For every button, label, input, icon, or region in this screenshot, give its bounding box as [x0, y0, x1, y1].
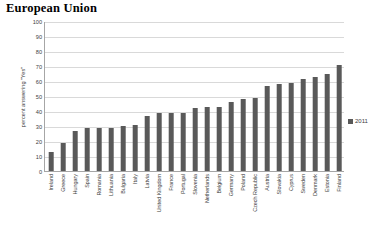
x-label-slot: Cyprus: [285, 174, 297, 242]
x-label-slot: Portugal: [177, 174, 189, 242]
x-label-slot: Denmark: [309, 174, 321, 242]
bar: [277, 84, 282, 171]
y-tick-label-90: 90: [36, 34, 42, 40]
x-label-slot: Austria: [261, 174, 273, 242]
x-label-slot: Romania: [93, 174, 105, 242]
x-axis-category-labels: IrelandGreeceHungarySpainRomaniaLithuani…: [45, 174, 345, 242]
bar-slot: [117, 22, 129, 171]
bar-slot: [93, 22, 105, 171]
bar-slot: [237, 22, 249, 171]
x-axis-label: Netherlands: [204, 174, 210, 203]
bar-slot: [225, 22, 237, 171]
x-axis-label: Portugal: [180, 174, 186, 194]
bar-slot: [153, 22, 165, 171]
x-axis-label: Czech Republic: [252, 174, 258, 212]
y-tick-label-80: 80: [36, 49, 42, 55]
x-label-slot: Finland: [333, 174, 345, 242]
bar: [133, 125, 138, 172]
x-axis-label: Italy: [132, 174, 138, 184]
y-tick-label-30: 30: [36, 124, 42, 130]
plot-area: [44, 22, 344, 172]
x-axis-label: Greece: [60, 174, 66, 192]
x-axis-label: Lithuania: [108, 174, 114, 196]
x-axis-label: Cyprus: [288, 174, 294, 191]
x-axis-label: Slovakia: [276, 174, 282, 194]
bar: [61, 143, 66, 172]
bar-slot: [201, 22, 213, 171]
y-tick-label-20: 20: [36, 139, 42, 145]
bar: [169, 113, 174, 172]
x-label-slot: Hungary: [69, 174, 81, 242]
x-axis-label: Slovenia: [192, 174, 198, 195]
legend: 2011: [348, 118, 368, 125]
bar: [109, 128, 114, 172]
bars-layer: [45, 22, 344, 171]
legend-label-2011: 2011: [355, 118, 368, 125]
y-tick-label-10: 10: [36, 154, 42, 160]
bar-slot: [69, 22, 81, 171]
x-axis-label: Romania: [96, 174, 102, 196]
y-axis-tick-labels: 1009080706050403020100: [20, 22, 42, 172]
bar: [205, 107, 210, 172]
bar-slot: [165, 22, 177, 171]
bar-slot: [57, 22, 69, 171]
x-label-slot: United Kingdom: [153, 174, 165, 242]
y-tick-label-40: 40: [36, 109, 42, 115]
bar: [193, 108, 198, 171]
bar: [49, 152, 54, 172]
bar: [241, 99, 246, 171]
bar-slot: [129, 22, 141, 171]
x-label-slot: Poland: [237, 174, 249, 242]
bar-slot: [249, 22, 261, 171]
bar: [265, 86, 270, 172]
bar-slot: [189, 22, 201, 171]
y-tick-label-100: 100: [33, 19, 42, 25]
x-axis-label: Bulgaria: [120, 174, 126, 194]
x-axis-label: Poland: [240, 174, 246, 191]
y-tick-label-50: 50: [36, 94, 42, 100]
bar: [157, 113, 162, 172]
bar: [85, 128, 90, 172]
x-axis-label: Belgium: [216, 174, 222, 193]
x-axis-label: Latvia: [144, 174, 150, 188]
x-axis-label: Sweden: [300, 174, 306, 193]
x-label-slot: Netherlands: [201, 174, 213, 242]
bar-slot: [177, 22, 189, 171]
x-label-slot: Estonia: [321, 174, 333, 242]
bar: [337, 65, 342, 172]
bar-slot: [213, 22, 225, 171]
x-axis-label: Spain: [84, 174, 90, 188]
bar-slot: [333, 22, 345, 171]
bar-slot: [261, 22, 273, 171]
bar: [97, 128, 102, 172]
bar: [121, 126, 126, 171]
x-label-slot: Ireland: [45, 174, 57, 242]
x-axis-label: Ireland: [48, 174, 54, 190]
x-axis-label: Austria: [264, 174, 270, 191]
x-label-slot: Czech Republic: [249, 174, 261, 242]
bar-slot: [285, 22, 297, 171]
y-tick-label-0: 0: [39, 169, 42, 175]
x-label-slot: France: [165, 174, 177, 242]
x-label-slot: Slovakia: [273, 174, 285, 242]
bar-slot: [321, 22, 333, 171]
x-label-slot: Bulgaria: [117, 174, 129, 242]
bar: [181, 113, 186, 172]
x-label-slot: Sweden: [297, 174, 309, 242]
x-axis-label: United Kingdom: [156, 174, 162, 212]
bar-slot: [297, 22, 309, 171]
x-label-slot: Greece: [57, 174, 69, 242]
x-label-slot: Lithuania: [105, 174, 117, 242]
x-axis-label: Hungary: [72, 174, 78, 194]
x-label-slot: Belgium: [213, 174, 225, 242]
x-axis-label: Denmark: [312, 174, 318, 196]
x-axis-label: Estonia: [324, 174, 330, 192]
x-label-slot: Spain: [81, 174, 93, 242]
bar: [289, 83, 294, 172]
x-axis-label: France: [168, 174, 174, 191]
bar: [229, 102, 234, 171]
bar: [73, 131, 78, 172]
legend-swatch-2011: [348, 119, 353, 124]
bar: [253, 98, 258, 172]
bar: [145, 116, 150, 172]
